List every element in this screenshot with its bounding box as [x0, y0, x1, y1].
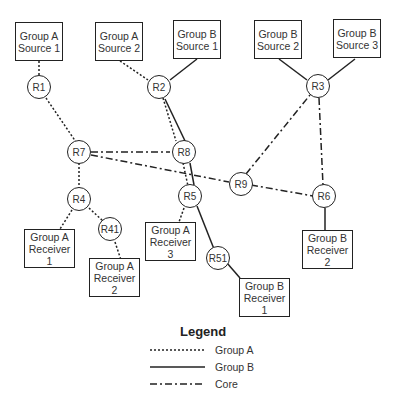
router-r5: R5 [178, 184, 202, 208]
router-r2: R2 [147, 75, 171, 99]
router-r4: R4 [67, 187, 91, 211]
box-line2: Source 2 [98, 42, 140, 54]
legend-label-core: Core [215, 378, 238, 390]
box-line2: Receiver 1 [25, 243, 74, 267]
box-line2: Source 2 [257, 40, 299, 52]
legend-lines [150, 350, 205, 384]
group-a-receiver-3-box: Group A Receiver 3 [145, 222, 196, 261]
box-line1: Group A [151, 224, 190, 236]
box-line2: Receiver 3 [146, 236, 195, 260]
group-a-source-1-box: Group A Source 1 [15, 22, 63, 61]
group-b-source-3-box: Group B Source 3 [333, 19, 381, 58]
box-line1: Group B [245, 280, 284, 292]
box-line1: Group B [177, 28, 216, 40]
box-line2: Source 3 [336, 39, 378, 51]
box-line1: Group B [337, 27, 376, 39]
box-line2: Receiver 2 [303, 244, 352, 268]
router-r9: R9 [229, 172, 253, 196]
legend-title: Legend [180, 324, 226, 339]
group-b-source-1-box: Group B Source 1 [173, 20, 221, 59]
box-line1: Group B [258, 28, 297, 40]
router-r41: R41 [98, 217, 122, 241]
box-line2: Receiver 2 [90, 272, 139, 296]
box-line1: Group A [20, 30, 59, 42]
group-a-source-2-box: Group A Source 2 [95, 22, 143, 61]
legend-label-group-a: Group A [215, 344, 254, 356]
router-r1: R1 [27, 75, 51, 99]
group-b-receiver-2-box: Group B Receiver 2 [302, 230, 353, 269]
box-line2: Source 1 [176, 40, 218, 52]
legend-label-group-b: Group B [215, 361, 254, 373]
box-line1: Group A [30, 231, 69, 243]
router-r7: R7 [67, 140, 91, 164]
box-line1: Group B [308, 232, 347, 244]
router-r3: R3 [306, 74, 330, 98]
core-links [91, 95, 323, 196]
group-a-receiver-1-box: Group A Receiver 1 [24, 229, 75, 268]
router-r6: R6 [312, 184, 336, 208]
group-b-source-2-box: Group B Source 2 [254, 20, 302, 59]
box-line1: Group A [100, 30, 139, 42]
router-r8: R8 [172, 140, 196, 164]
group-b-receiver-1-box: Group B Receiver 1 [239, 278, 290, 317]
router-r51: R51 [206, 246, 230, 270]
box-line1: Group A [95, 260, 134, 272]
group-a-receiver-2-box: Group A Receiver 2 [89, 258, 140, 297]
box-line2: Source 1 [18, 42, 60, 54]
box-line2: Receiver 1 [240, 292, 289, 316]
